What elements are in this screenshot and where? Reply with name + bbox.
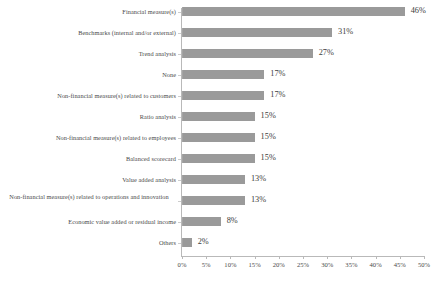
bar [182, 175, 245, 184]
x-axis-tick [279, 256, 280, 259]
y-axis-tick [178, 138, 181, 139]
y-axis-tick [178, 201, 181, 202]
y-axis-tick [178, 222, 181, 223]
bar-row: Non-financial measure(s) related to oper… [0, 191, 438, 212]
bar-value-label: 13% [251, 174, 266, 183]
y-axis-tick [178, 75, 181, 76]
bar-row: Non-financial measure(s) related to empl… [0, 128, 438, 149]
y-axis-tick [178, 159, 181, 160]
bar-row: Benchmarks (internal and/or external)31% [0, 23, 438, 44]
x-axis-tick [182, 256, 183, 259]
bar-row: Value added analysis13% [0, 170, 438, 191]
bar-row: Non-financial measure(s) related to cust… [0, 86, 438, 107]
x-axis-tick [327, 256, 328, 259]
x-axis-tick [230, 256, 231, 259]
bar-value-label: 15% [261, 153, 276, 162]
bar [182, 7, 405, 16]
bar [182, 133, 255, 142]
x-axis-tick [255, 256, 256, 259]
category-label: Non-financial measure(s) related to oper… [2, 193, 176, 201]
category-label: Balanced scorecard [2, 155, 176, 163]
y-axis-tick [178, 96, 181, 97]
x-axis-tick [351, 256, 352, 259]
bar-row: Economic value added or residual income8… [0, 212, 438, 233]
y-axis-tick [178, 117, 181, 118]
bar [182, 70, 264, 79]
x-axis-tick [400, 256, 401, 259]
y-axis-tick [178, 180, 181, 181]
category-label: Financial measure(s) [2, 8, 176, 16]
bar-value-label: 17% [270, 90, 285, 99]
bar-value-label: 27% [319, 48, 334, 57]
bar-value-label: 15% [261, 132, 276, 141]
bar [182, 91, 264, 100]
bar-row: Others2% [0, 233, 438, 254]
x-axis-tick-label: 50% [409, 261, 438, 269]
category-label: Non-financial measure(s) related to cust… [2, 92, 176, 100]
bar-chart: Financial measure(s)46%Benchmarks (inter… [0, 0, 438, 286]
y-axis-tick [178, 12, 181, 13]
x-axis-tick [424, 256, 425, 259]
category-label: None [2, 71, 176, 79]
bar-value-label: 13% [251, 195, 266, 204]
bar-value-label: 8% [227, 216, 238, 225]
bar [182, 28, 332, 37]
bar-row: Balanced scorecard15% [0, 149, 438, 170]
bar [182, 217, 221, 226]
y-axis-tick [178, 33, 181, 34]
y-axis-tick [178, 243, 181, 244]
plot-area: Financial measure(s)46%Benchmarks (inter… [0, 0, 438, 286]
category-label: Others [2, 239, 176, 247]
bar [182, 49, 313, 58]
category-label: Trend analysis [2, 50, 176, 58]
x-axis-tick [206, 256, 207, 259]
bar-value-label: 2% [198, 237, 209, 246]
bar [182, 196, 245, 205]
bar-row: Financial measure(s)46% [0, 2, 438, 23]
bar-value-label: 17% [270, 69, 285, 78]
category-label: Non-financial measure(s) related to empl… [2, 134, 176, 142]
bar-value-label: 15% [261, 111, 276, 120]
bar-row: Trend analysis27% [0, 44, 438, 65]
category-label: Economic value added or residual income [2, 218, 176, 226]
x-axis-tick [303, 256, 304, 259]
bar-value-label: 31% [338, 27, 353, 36]
bar [182, 154, 255, 163]
bar [182, 112, 255, 121]
category-label: Benchmarks (internal and/or external) [2, 29, 176, 37]
bar [182, 238, 192, 247]
x-axis-tick [376, 256, 377, 259]
category-label: Value added analysis [2, 176, 176, 184]
category-label: Ratio analysis [2, 113, 176, 121]
y-axis-tick [178, 54, 181, 55]
bar-row: None17% [0, 65, 438, 86]
bar-value-label: 46% [411, 6, 426, 15]
bar-row: Ratio analysis15% [0, 107, 438, 128]
